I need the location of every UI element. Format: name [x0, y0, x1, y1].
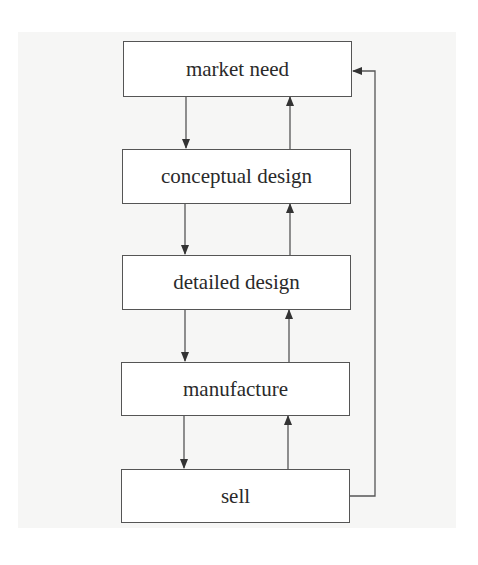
node-market-need: market need: [123, 41, 352, 97]
node-label: market need: [186, 57, 289, 82]
node-sell: sell: [121, 469, 350, 523]
node-conceptual-design: conceptual design: [122, 149, 351, 204]
node-label: manufacture: [183, 377, 288, 402]
node-detailed-design: detailed design: [122, 255, 351, 310]
node-label: detailed design: [173, 270, 300, 295]
node-label: conceptual design: [161, 164, 312, 189]
feedback-loop-arrow: [350, 71, 375, 496]
node-manufacture: manufacture: [121, 362, 350, 416]
node-label: sell: [221, 484, 250, 509]
